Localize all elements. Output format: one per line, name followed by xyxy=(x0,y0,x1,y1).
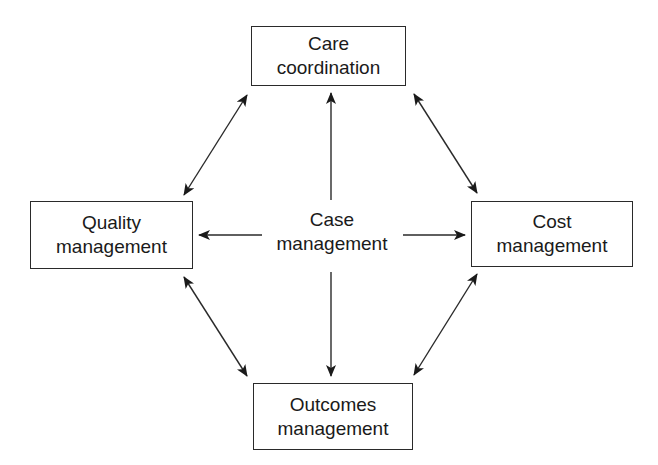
node-cost-management: Cost management xyxy=(471,201,633,267)
node-label-line2: management xyxy=(497,234,608,258)
node-care-coordination: Care coordination xyxy=(251,26,406,86)
arrow-quality-outcomes xyxy=(184,277,247,376)
node-outcomes-management: Outcomes management xyxy=(253,383,413,450)
center-node-case-management: Case management xyxy=(266,208,398,260)
node-label-line1: Care xyxy=(308,32,349,56)
node-label-line2: management xyxy=(56,235,167,259)
arrow-care-cost xyxy=(414,94,477,193)
node-quality-management: Quality management xyxy=(30,201,193,269)
arrow-care-quality xyxy=(184,95,247,195)
case-management-diagram: Care coordination Quality management Cos… xyxy=(0,0,658,465)
arrow-cost-outcomes xyxy=(414,274,477,375)
node-label-line1: Cost xyxy=(532,210,571,234)
center-label-line1: Case xyxy=(310,208,354,232)
center-label-line2: management xyxy=(277,232,388,256)
node-label-line1: Outcomes xyxy=(290,393,377,417)
node-label-line1: Quality xyxy=(82,211,141,235)
node-label-line2: management xyxy=(278,417,389,441)
node-label-line2: coordination xyxy=(277,56,381,80)
